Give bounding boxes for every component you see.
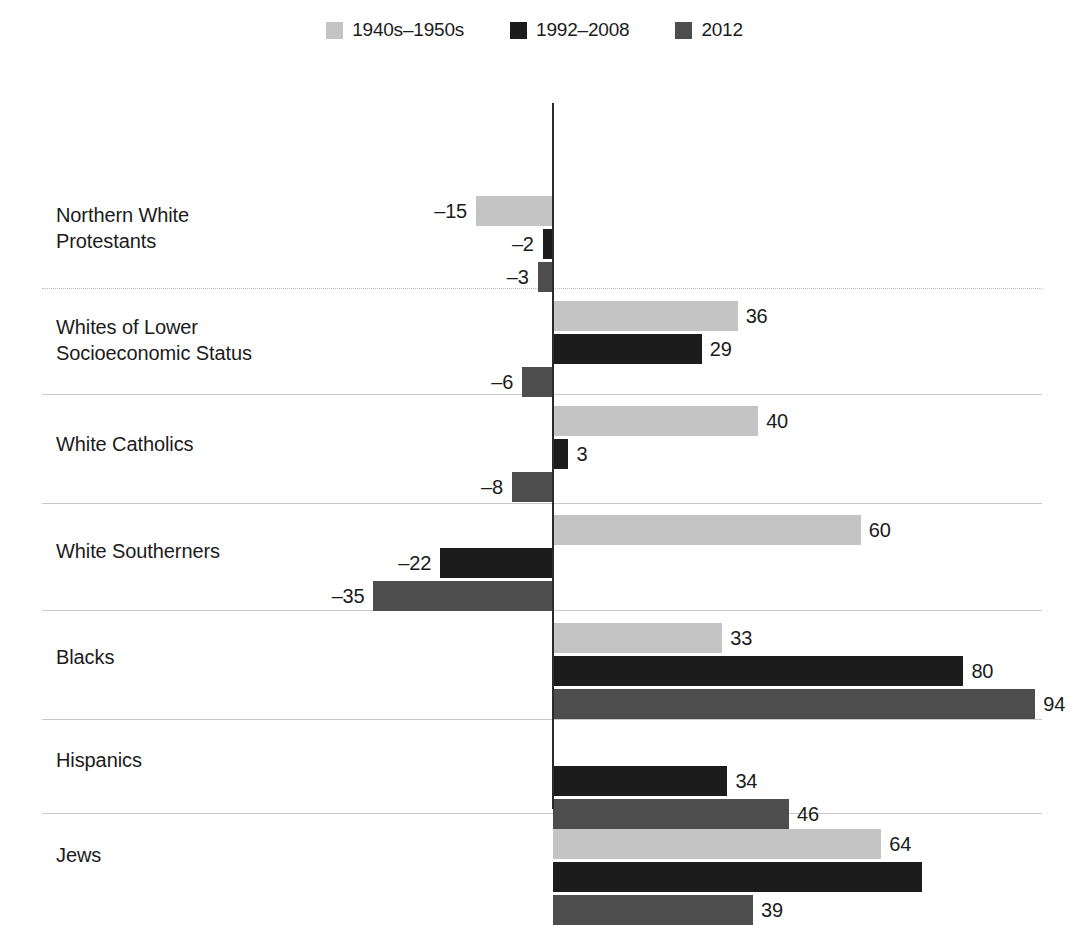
legend-swatch-icon	[675, 22, 692, 39]
bar-value-label: –35	[332, 585, 365, 608]
legend-swatch-icon	[510, 22, 527, 39]
bar-value-label: –6	[491, 371, 513, 394]
bar: 33	[553, 623, 722, 653]
bar: 29	[553, 334, 702, 364]
category-label: White Southerners	[56, 538, 220, 564]
bar: 94	[553, 689, 1035, 719]
bar-row: 80	[0, 656, 1069, 686]
bar-value-label: –15	[434, 200, 467, 223]
bar: 3	[553, 439, 568, 469]
bar-value-label: 46	[797, 803, 819, 826]
bar-value-label: 60	[869, 519, 891, 542]
bar-value-label: –22	[398, 552, 431, 575]
bar-value-label: –3	[507, 266, 529, 289]
bar: –6	[522, 367, 553, 397]
legend-label: 1940s–1950s	[352, 19, 464, 41]
legend-swatch-icon	[326, 22, 343, 39]
zero-axis-line	[552, 103, 554, 809]
bar-value-label: –8	[481, 476, 503, 499]
bar-row: 39	[0, 895, 1069, 925]
category-label: White Catholics	[56, 431, 193, 457]
bar-value-label: 94	[1043, 693, 1065, 716]
bar-value-label: 36	[746, 305, 768, 328]
chart-legend: 1940s–1950s1992–20082012	[0, 16, 1069, 44]
chart-plot-area: Northern White Protestants–15–2–3Whites …	[0, 92, 1069, 827]
legend-entry: 2012	[675, 19, 742, 41]
bar-row: 33	[0, 623, 1069, 653]
legend-entry: 1992–2008	[510, 19, 629, 41]
bar-value-label: 80	[971, 660, 993, 683]
bar-row: 94	[0, 689, 1069, 719]
bar: 36	[553, 301, 738, 331]
bar: –15	[476, 196, 553, 226]
bar-value-label: 34	[735, 770, 757, 793]
bar-value-label: 40	[766, 410, 788, 433]
legend-entry: 1940s–1950s	[326, 19, 464, 41]
bar: 60	[553, 515, 861, 545]
bar: 40	[553, 406, 758, 436]
bar: 39	[553, 895, 753, 925]
bar-value-label: 3	[576, 443, 587, 466]
category-label: Whites of Lower Socioeconomic Status	[56, 314, 252, 366]
bar-row	[0, 862, 1069, 892]
bar: –8	[512, 472, 553, 502]
bar: 80	[553, 656, 963, 686]
bar-row: –35	[0, 581, 1069, 611]
bar	[553, 862, 922, 892]
bar-value-label: 39	[761, 899, 783, 922]
category-label: Northern White Protestants	[56, 202, 189, 254]
bar: –22	[440, 548, 553, 578]
group-separator	[42, 719, 1042, 720]
bar: 46	[553, 799, 789, 829]
bar: –35	[373, 581, 553, 611]
bar-row: –3	[0, 262, 1069, 292]
legend-label: 2012	[701, 19, 742, 41]
bar-row: 64	[0, 829, 1069, 859]
bar-row: 34	[0, 766, 1069, 796]
bar-row: –6	[0, 367, 1069, 397]
category-label: Hispanics	[56, 747, 142, 773]
group-separator	[42, 503, 1042, 504]
bar: 64	[553, 829, 881, 859]
bar-row: –8	[0, 472, 1069, 502]
category-label: Jews	[56, 842, 101, 868]
bar-value-label: –2	[512, 233, 534, 256]
legend-label: 1992–2008	[536, 19, 629, 41]
bar-value-label: 64	[889, 833, 911, 856]
bar: –3	[538, 262, 553, 292]
bar-row: 46	[0, 799, 1069, 829]
bar: 34	[553, 766, 727, 796]
category-label: Blacks	[56, 644, 114, 670]
bar-value-label: 33	[730, 627, 752, 650]
bar-value-label: 29	[710, 338, 732, 361]
